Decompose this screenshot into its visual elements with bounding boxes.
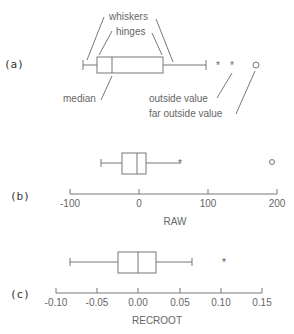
far-outside-value-label: far outside value (149, 108, 223, 119)
panel-a-label: (a) (4, 58, 24, 71)
median-label: median (63, 93, 96, 104)
panel-b: * (b) -100 0 100 200 RAW (10, 153, 286, 227)
box (97, 57, 163, 73)
outside-value-marker: * (216, 60, 220, 71)
whiskers-label: whiskers (108, 11, 148, 22)
outside-value-marker: * (178, 158, 182, 169)
box (118, 252, 156, 273)
tick-label: 100 (200, 198, 217, 209)
panel-c: * (c) -0.10 -0.05 0.00 0.05 0.10 0.15 RE… (10, 252, 272, 326)
leader-whisker-right (156, 19, 173, 62)
far-outside-marker (270, 160, 275, 165)
box (122, 153, 146, 174)
x-axis-label: RAW (164, 216, 188, 227)
tick-label: -0.10 (45, 297, 68, 308)
leader-hinge-right (152, 33, 162, 55)
tick-label: 200 (269, 198, 286, 209)
panel-a: (a) * * whiskers hinges median outside v… (4, 11, 259, 119)
far-outside-marker (253, 62, 259, 68)
tick-label: 0.00 (128, 297, 148, 308)
outside-value-marker: * (222, 257, 226, 268)
outside-value-label: outside value (149, 93, 208, 104)
tick-label: -0.05 (86, 297, 109, 308)
panel-b-label: (b) (10, 190, 30, 203)
tick-label: -100 (60, 198, 80, 209)
leader-whisker-left (87, 17, 104, 60)
tick-label: 0 (136, 198, 142, 209)
boxplot-figure: (a) * * whiskers hinges median outside v… (0, 0, 294, 334)
tick-label: 0.10 (211, 297, 231, 308)
x-axis-label: RECROOT (132, 315, 182, 326)
outside-value-marker: * (230, 60, 234, 71)
leader-median (101, 76, 112, 100)
panel-c-label: (c) (10, 288, 30, 301)
leader-hinge-left (99, 31, 112, 55)
leader-far-outside (236, 71, 255, 114)
tick-label: 0.15 (252, 297, 272, 308)
hinges-label: hinges (116, 26, 145, 37)
leader-outside (217, 73, 232, 98)
tick-label: 0.05 (170, 297, 190, 308)
